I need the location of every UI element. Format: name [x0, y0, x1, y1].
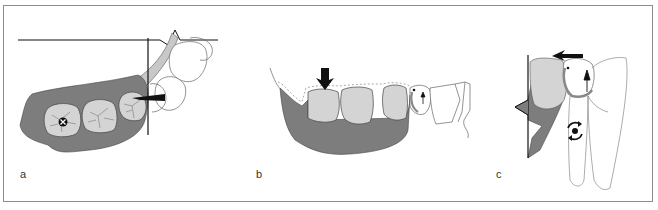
molar-1 — [44, 104, 81, 137]
tooth-outline — [169, 42, 207, 82]
panel-label-a: a — [20, 168, 26, 180]
rotation-icon — [568, 121, 582, 141]
gingiva-outline — [270, 68, 282, 90]
molar-crown-3 — [383, 85, 408, 120]
molar-3 — [119, 92, 146, 121]
tooth-root-outline — [569, 96, 589, 186]
panel-a: a — [0, 0, 230, 210]
panel-c: c — [470, 0, 658, 210]
dot-marker-icon — [567, 67, 570, 70]
down-arrow-icon — [316, 68, 334, 90]
panel-b-illustration — [240, 0, 480, 210]
adjacent-tooth-crown — [530, 58, 567, 109]
panel-b: b — [240, 0, 480, 210]
panel-a-illustration — [0, 0, 230, 210]
molar-crown-1 — [308, 89, 339, 122]
tooth-outline — [155, 77, 186, 111]
molar-2 — [82, 100, 117, 133]
panel-label-c: c — [496, 168, 502, 180]
dot-marker-icon — [413, 89, 416, 92]
anterior-tooth-outline — [430, 84, 460, 124]
panel-label-b: b — [256, 168, 262, 180]
molar-crown-2 — [341, 87, 374, 124]
